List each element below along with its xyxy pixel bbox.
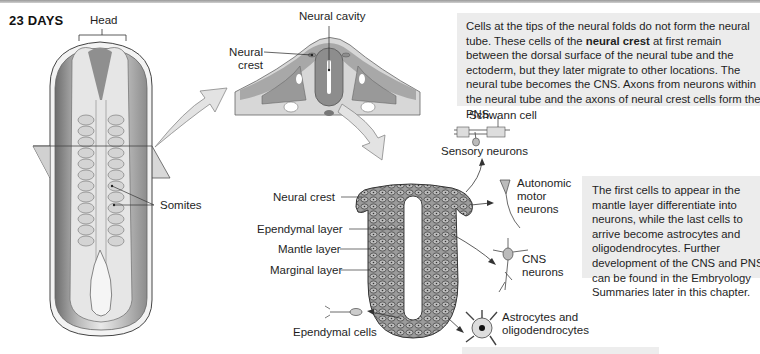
- label-autonomic-line1: Autonomic: [517, 177, 571, 190]
- label-autonomic-line3: neurons: [517, 203, 559, 216]
- bottom-caption-bar: [462, 347, 659, 354]
- arrow-embryo-to-section: [155, 88, 227, 147]
- label-marginal-layer: Marginal layer: [270, 264, 342, 277]
- label-astrocytes-line1: Astrocytes and: [502, 311, 578, 324]
- label-neural-cavity: Neural cavity: [299, 10, 365, 23]
- label-head: Head: [90, 14, 118, 27]
- label-neural-crest-section: Neural crest: [229, 46, 263, 72]
- embryo-illustration: [33, 29, 170, 336]
- caption-neural-crest: Cells at the tips of the neural folds do…: [457, 13, 760, 106]
- astrocyte-icon: [466, 310, 497, 345]
- label-mantle-layer: Mantle layer: [278, 243, 341, 256]
- label-somites: Somites: [160, 199, 202, 212]
- label-ependymal-layer: Ependymal layer: [257, 223, 343, 236]
- figure-title: 23 DAYS: [9, 13, 63, 28]
- label-cns-line2: neurons: [522, 266, 564, 279]
- label-autonomic-line2: motor: [517, 190, 546, 203]
- label-astrocytes-line2: oligodendrocytes: [502, 324, 589, 337]
- ependymal-cell-icon: [325, 306, 362, 318]
- label-ependymal-cells: Ependymal cells: [293, 326, 377, 339]
- caption-mantle-layer: The first cells to appear in the mantle …: [582, 176, 760, 278]
- label-cns-line1: CNS: [522, 253, 546, 266]
- label-neural-crest-tube: Neural crest: [273, 191, 335, 204]
- caption-top-bold-term: neural crest: [586, 35, 650, 47]
- label-sensory-neurons: Sensory neurons: [441, 145, 528, 158]
- neural-tube-illustration: [340, 158, 496, 338]
